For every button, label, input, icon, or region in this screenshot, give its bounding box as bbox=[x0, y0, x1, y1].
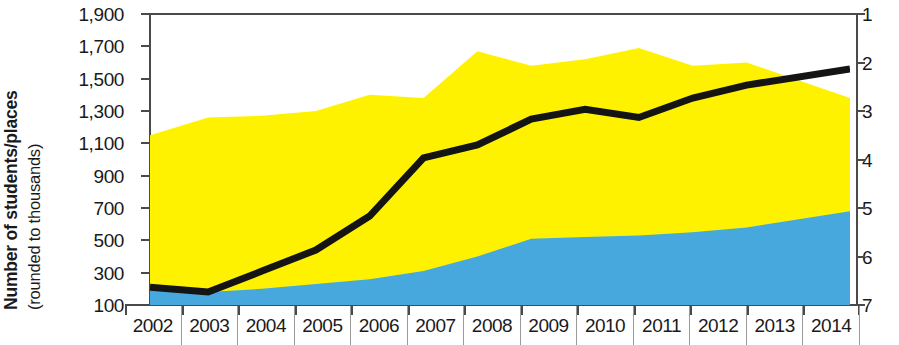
x-axis-tick-label: 2005 bbox=[295, 306, 352, 345]
x-axis-tick-label: 2002 bbox=[125, 306, 182, 345]
y-axis-left-tick-mark bbox=[141, 78, 150, 80]
x-axis-tick-label: 2006 bbox=[351, 306, 408, 345]
y-axis-left-tick-mark bbox=[141, 45, 150, 47]
y-axis-right-tick-label: 7 bbox=[862, 296, 899, 315]
y-axis-left-tick-label: 900 bbox=[52, 166, 124, 185]
y-axis-right-tick-label: 5 bbox=[862, 199, 899, 218]
y-axis-title-sub: (rounded to thousands) bbox=[25, 10, 44, 310]
y-axis-left-tick-mark bbox=[141, 304, 150, 306]
y-axis-right-tick-mark bbox=[856, 110, 865, 112]
x-axis-labels: 2002200320042005200620072008200920102011… bbox=[125, 306, 860, 345]
x-axis-tick-label: 2012 bbox=[690, 306, 747, 345]
plot-area bbox=[150, 14, 850, 305]
y-axis-left-tick-label: 1,700 bbox=[52, 37, 124, 56]
y-axis-left-tick-label: 1,500 bbox=[52, 69, 124, 88]
chart-figure: Number of students/places (rounded to th… bbox=[0, 0, 899, 345]
y-axis-left-tick-label: 500 bbox=[52, 231, 124, 250]
y-axis-right-tick-label: 6 bbox=[862, 247, 899, 266]
y-axis-left-tick-mark bbox=[141, 13, 150, 15]
y-axis-right-tick-label: 4 bbox=[862, 150, 899, 169]
y-axis-right-tick-mark bbox=[856, 207, 865, 209]
y-axis-left-tick-mark bbox=[141, 272, 150, 274]
y-axis-left-tick-label: 300 bbox=[52, 263, 124, 282]
y-axis-left-tick-label: 1,300 bbox=[52, 102, 124, 121]
y-axis-title-main: Number of students/places bbox=[1, 10, 22, 310]
x-axis-tick-label: 2007 bbox=[408, 306, 465, 345]
y-axis-right-tick-mark bbox=[856, 304, 865, 306]
y-axis-left-tick-label: 1,900 bbox=[52, 5, 124, 24]
x-axis-tick-label: 2008 bbox=[464, 306, 521, 345]
chart-canvas bbox=[150, 14, 850, 305]
y-axis-left-tick-labels: 1,9001,7001,5001,3001,100900700500300100 bbox=[48, 0, 124, 345]
x-axis-tick-label: 2014 bbox=[803, 306, 860, 345]
x-axis-tick-label: 2011 bbox=[634, 306, 691, 345]
y-axis-left-tick-mark bbox=[141, 110, 150, 112]
y-axis-left-tick-label: 1,100 bbox=[52, 134, 124, 153]
y-axis-right-tick-mark bbox=[856, 13, 865, 15]
x-axis-tick-label: 2003 bbox=[182, 306, 239, 345]
y-axis-right-tick-mark bbox=[856, 62, 865, 64]
y-axis-right-tick-label: 1 bbox=[862, 5, 899, 24]
y-axis-right-tick-labels: 1234567 bbox=[862, 0, 899, 345]
x-axis-tick-label: 2009 bbox=[521, 306, 578, 345]
y-axis-left-tick-mark bbox=[141, 142, 150, 144]
y-axis-left-tick-label: 100 bbox=[52, 296, 124, 315]
x-axis-tick-label: 2013 bbox=[747, 306, 804, 345]
x-axis-tick-label: 2010 bbox=[577, 306, 634, 345]
y-axis-left-tick-mark bbox=[141, 239, 150, 241]
x-axis-tick-label: 2004 bbox=[238, 306, 295, 345]
y-axis-left-tick-mark bbox=[141, 175, 150, 177]
y-axis-left-tick-label: 700 bbox=[52, 199, 124, 218]
y-axis-right-tick-mark bbox=[856, 256, 865, 258]
y-axis-right-tick-label: 2 bbox=[862, 53, 899, 72]
y-axis-right-tick-label: 3 bbox=[862, 102, 899, 121]
y-axis-left-tick-mark bbox=[141, 207, 150, 209]
y-axis-right-tick-mark bbox=[856, 159, 865, 161]
